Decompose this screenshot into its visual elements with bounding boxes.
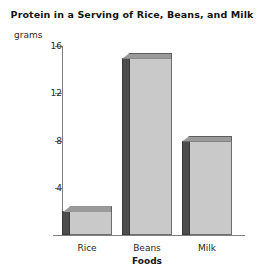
bar-front-face — [189, 141, 232, 236]
bar-chart: Protein in a Serving of Rice, Beans, and… — [0, 0, 264, 271]
x-tick-label: Beans — [122, 243, 172, 253]
bar-front-face — [69, 211, 112, 235]
bar-side-face — [182, 141, 190, 236]
x-tick-label: Milk — [182, 243, 232, 253]
bar-side-face — [122, 58, 130, 235]
x-tick-label: Rice — [62, 243, 112, 253]
x-axis-label: Foods — [122, 256, 172, 266]
bar-top-face — [122, 53, 172, 59]
bar-front-face — [129, 58, 172, 235]
bar-top-face — [182, 136, 232, 142]
bar-milk — [182, 136, 232, 236]
bar-top-face — [62, 206, 112, 212]
bar-series — [0, 0, 264, 271]
bar-beans — [122, 53, 172, 235]
bar-rice — [62, 206, 112, 235]
bar-side-face — [62, 211, 70, 235]
